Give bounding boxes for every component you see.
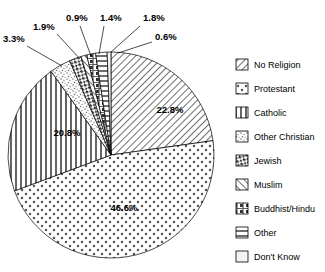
- legend-label-no-religion: No Religion: [254, 60, 301, 70]
- chart-canvas: 22.8% 46.6% 20.8% 3.3% 1.9% 0.9% 1.4% 1.…: [0, 0, 325, 272]
- callout-value-other-christian: 3.3%: [3, 33, 25, 44]
- legend-swatch-other[interactable]: [236, 227, 248, 238]
- legend: No Religion Protestant Catholic Other Ch…: [236, 59, 315, 262]
- legend-label-protestant: Protestant: [254, 84, 296, 94]
- slice-value-protestant: 46.6%: [111, 202, 138, 213]
- slice-value-catholic: 20.8%: [54, 127, 81, 138]
- callout-value-muslim: 0.9%: [66, 12, 88, 23]
- legend-label-catholic: Catholic: [254, 108, 287, 118]
- legend-swatch-no-religion[interactable]: [236, 59, 248, 70]
- leader-line-0-9: [80, 26, 91, 56]
- legend-swatch-buddhist-hindu[interactable]: [236, 203, 248, 214]
- leader-line-3-3: [27, 46, 62, 66]
- legend-label-jewish: Jewish: [254, 156, 282, 166]
- legend-label-other: Other: [254, 228, 277, 238]
- legend-swatch-dont-know[interactable]: [236, 251, 248, 262]
- leader-line-1-8: [111, 26, 140, 52]
- legend-label-other-christian: Other Christian: [254, 132, 315, 142]
- legend-swatch-catholic[interactable]: [236, 107, 248, 118]
- pie-chart-figure: 22.8% 46.6% 20.8% 3.3% 1.9% 0.9% 1.4% 1.…: [0, 0, 325, 272]
- legend-label-dont-know: Don't Know: [254, 252, 300, 262]
- callout-value-dont-know: 0.6%: [155, 31, 177, 42]
- callout-percentage-labels: 3.3% 1.9% 0.9% 1.4% 1.8% 0.6%: [3, 12, 177, 44]
- legend-swatch-protestant[interactable]: [236, 83, 248, 94]
- leader-line-1-4: [99, 26, 104, 54]
- legend-swatch-jewish[interactable]: [236, 155, 248, 166]
- callout-value-buddhist-hindu: 1.4%: [100, 12, 122, 23]
- legend-swatch-other-christian[interactable]: [236, 131, 248, 142]
- leader-line-0-6: [118, 42, 152, 53]
- callout-value-jewish: 1.9%: [33, 21, 55, 32]
- legend-swatch-muslim[interactable]: [236, 179, 248, 190]
- legend-label-muslim: Muslim: [254, 180, 283, 190]
- callout-value-other: 1.8%: [143, 12, 165, 23]
- leader-line-1-9: [57, 34, 80, 59]
- legend-label-buddhist-hindu: Buddhist/Hindu: [254, 204, 315, 214]
- pie-slices: [8, 52, 214, 258]
- slice-value-no-religion: 22.8%: [157, 104, 184, 115]
